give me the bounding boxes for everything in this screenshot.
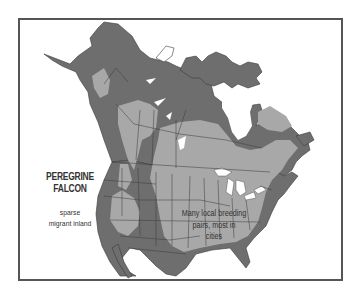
sparse-annotation-line2: migrant inland [36,218,104,229]
range-map [0,0,360,294]
sparse-annotation-line1: sparse [36,207,104,218]
greenland-tip [156,46,174,62]
map-title: PEREGRINE FALCON [36,171,104,195]
map-title-line2: FALCON [36,183,104,195]
breeding-annotation-line3: cities [177,231,252,243]
breeding-annotation: Many local breeding pairs, most in citie… [177,208,252,243]
map-title-line1: PEREGRINE [36,171,104,183]
breeding-annotation-line2: pairs, most in [177,220,252,232]
breeding-annotation-line1: Many local breeding [177,208,252,220]
sparse-annotation: sparse migrant inland [36,207,104,229]
